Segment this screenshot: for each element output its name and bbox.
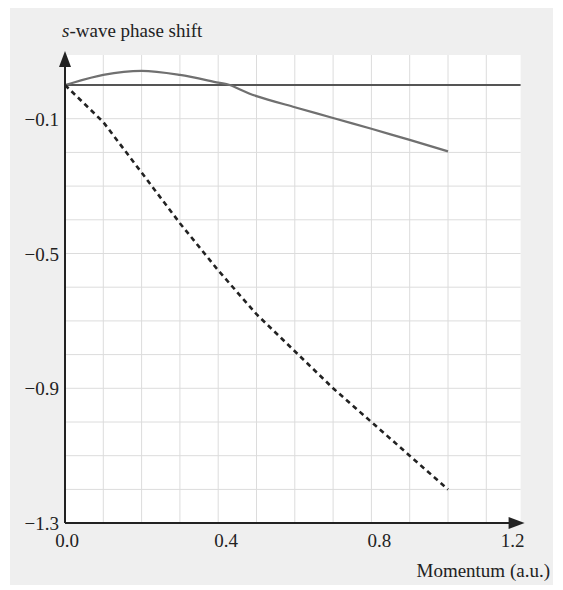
y-tick-label: −0.9 [25,378,59,399]
x-tick-label: 1.2 [501,530,525,551]
y-tick-label: −1.3 [25,513,59,534]
x-tick-label: 0.8 [368,530,392,551]
y-tick-label: −0.1 [25,109,59,130]
plot-area [65,55,521,523]
phase-shift-chart: −0.1−0.5−0.9−1.30.00.40.81.2 s-wave phas… [0,0,563,590]
y-axis-title: s-wave phase shift [62,20,203,41]
x-axis-title: Momentum (a.u.) [416,560,550,582]
x-tick-label: 0.0 [55,530,79,551]
y-axis-title-rest: -wave phase shift [69,20,203,41]
y-axis-title-italic: s [62,20,69,41]
y-tick-label: −0.5 [25,244,59,265]
x-tick-label: 0.4 [214,530,238,551]
